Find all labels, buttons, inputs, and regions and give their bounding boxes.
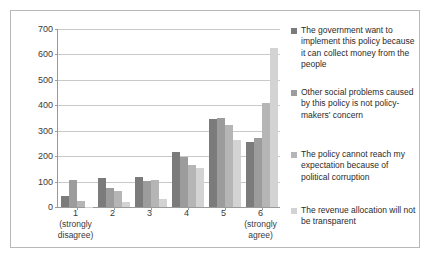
bar xyxy=(159,199,167,207)
bar xyxy=(135,177,143,207)
x-axis-category-label: 6 xyxy=(242,208,279,219)
legend-item-label: Other social problems caused by this pol… xyxy=(301,87,419,121)
bar-group xyxy=(206,29,243,207)
bar xyxy=(246,142,254,207)
bar xyxy=(114,191,122,207)
bar xyxy=(209,119,217,207)
x-axis-category: 2 xyxy=(94,208,131,241)
chart-legend: The government want to implement this po… xyxy=(289,11,419,249)
legend-swatch-icon xyxy=(291,208,297,214)
y-axis-tick-label: 200 xyxy=(38,151,53,161)
bar xyxy=(196,168,204,207)
plot-area-wrapper: 0100200300400500600700 1(stronglydisagre… xyxy=(11,11,289,249)
bar xyxy=(122,202,130,207)
legend-swatch-icon xyxy=(291,152,297,158)
bar-groups xyxy=(58,29,280,207)
chart-frame: 0100200300400500600700 1(stronglydisagre… xyxy=(10,10,420,248)
bar xyxy=(254,138,262,207)
x-axis-category: 6(stronglyagree) xyxy=(242,208,279,241)
legend-item-label: The revenue allocation will not be trans… xyxy=(301,205,419,228)
x-axis-category: 1(stronglydisagree) xyxy=(57,208,94,241)
bar xyxy=(180,157,188,207)
y-axis-tick-label: 500 xyxy=(38,75,53,85)
bar xyxy=(151,180,159,207)
x-axis-category-sublabel: (strongly xyxy=(57,219,94,230)
legend-item[interactable]: Other social problems caused by this pol… xyxy=(291,87,419,121)
x-axis-category-label: 2 xyxy=(94,208,131,219)
bar xyxy=(85,207,93,208)
legend-item-label: The government want to implement this po… xyxy=(301,25,419,70)
bar xyxy=(262,103,270,207)
bar xyxy=(61,196,69,207)
bar xyxy=(69,180,77,207)
bar xyxy=(188,165,196,207)
bar xyxy=(225,125,233,207)
x-axis-category-label: 3 xyxy=(131,208,168,219)
bar xyxy=(172,152,180,207)
bar-group xyxy=(243,29,280,207)
bar xyxy=(77,201,85,207)
x-axis-category-label: 4 xyxy=(168,208,205,219)
y-axis-tick-label: 0 xyxy=(48,202,53,212)
bar-group xyxy=(132,29,169,207)
bar xyxy=(233,140,241,207)
x-axis-category: 3 xyxy=(131,208,168,241)
bar xyxy=(98,178,106,207)
y-axis-tick-label: 300 xyxy=(38,126,53,136)
y-axis-tick-label: 100 xyxy=(38,177,53,187)
bar xyxy=(106,188,114,207)
x-axis-category-sublabel: (strongly xyxy=(242,219,279,230)
y-axis-tick-label: 600 xyxy=(38,49,53,59)
x-axis-category-sublabel: disagree) xyxy=(57,230,94,241)
bar xyxy=(270,48,278,207)
x-axis-category-sublabel: agree) xyxy=(242,230,279,241)
x-axis-category: 5 xyxy=(205,208,242,241)
x-axis-labels: 1(stronglydisagree)23456(stronglyagree) xyxy=(57,208,279,241)
legend-item-label: The policy cannot reach my expectation b… xyxy=(301,149,419,183)
plot-area: 0100200300400500600700 xyxy=(57,29,280,208)
legend-swatch-icon xyxy=(291,90,297,96)
y-axis-tick-label: 700 xyxy=(38,24,53,34)
bar xyxy=(217,118,225,207)
legend-item[interactable]: The policy cannot reach my expectation b… xyxy=(291,149,419,183)
legend-swatch-icon xyxy=(291,28,297,34)
bar-group xyxy=(58,29,95,207)
bar xyxy=(143,181,151,207)
legend-item[interactable]: The government want to implement this po… xyxy=(291,25,419,70)
legend-item[interactable]: The revenue allocation will not be trans… xyxy=(291,205,419,228)
x-axis-category: 4 xyxy=(168,208,205,241)
bar-group xyxy=(95,29,132,207)
x-axis-category-label: 5 xyxy=(205,208,242,219)
x-axis-category-label: 1 xyxy=(57,208,94,219)
bar-group xyxy=(169,29,206,207)
y-axis-tick-label: 400 xyxy=(38,100,53,110)
